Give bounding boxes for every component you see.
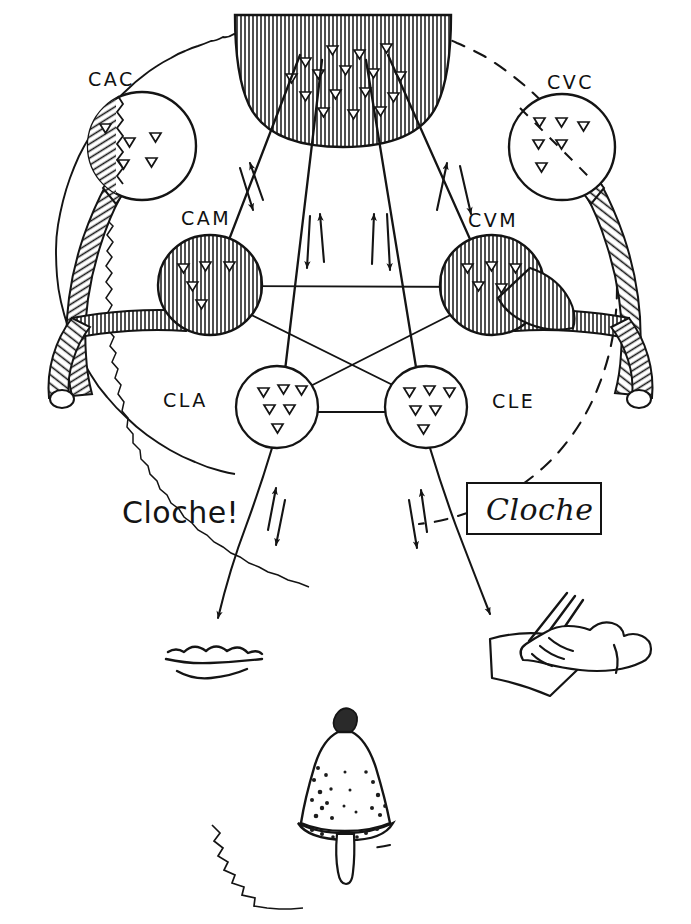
lower-lip <box>177 669 247 678</box>
arrow-down-CLE <box>387 214 390 270</box>
figure-canvas: CAC CVC CAM CVM CLA CLE Cloche! Cloche <box>0 0 691 924</box>
top-region-outline <box>235 15 451 147</box>
arrow-down-CLA <box>307 216 310 268</box>
path-CLA-to-mouth <box>218 448 272 618</box>
centre-label-CLA: CLA <box>163 389 208 411</box>
right-tract-endbulb <box>627 390 651 408</box>
head-outline-bottom-wavy <box>212 825 303 909</box>
centre-CVC[interactable] <box>509 94 615 200</box>
upper-lip <box>168 647 262 655</box>
written-word-label: Cloche <box>486 492 594 527</box>
arrow-up-speech <box>268 488 276 530</box>
arrow-up-writing <box>421 490 427 532</box>
centre-CLA[interactable] <box>236 366 318 448</box>
output-pathways <box>218 448 490 618</box>
pathway-arrows <box>240 163 471 270</box>
centre-CAC[interactable] <box>88 92 196 200</box>
centre-CLE[interactable] <box>385 366 467 448</box>
centre-label-CLE: CLE <box>492 390 535 412</box>
centre-label-CAM: CAM <box>181 207 231 229</box>
arrow-down-CVM <box>460 166 471 214</box>
centre-CLE-circle[interactable] <box>385 366 467 448</box>
hand-drawn-brain-diagram <box>0 0 691 924</box>
bell-handle <box>334 708 358 734</box>
arrow-up-CLA <box>320 214 324 262</box>
arrow-up-CLE <box>372 214 374 264</box>
centre-label-CVC: CVC <box>547 71 594 93</box>
arrow-down-writing <box>409 500 417 548</box>
centre-CVM[interactable] <box>440 235 574 335</box>
arrow-down-speech <box>276 500 285 545</box>
writing-hand-icon <box>490 593 651 696</box>
left-tract-endbulb <box>50 390 74 408</box>
centre-CAM-circle[interactable] <box>158 235 262 335</box>
centre-CLA-circle[interactable] <box>236 366 318 448</box>
mouth-lips-icon <box>166 647 262 679</box>
lip-line <box>166 659 262 663</box>
bell-clapper <box>336 834 354 884</box>
centre-label-CVM: CVM <box>468 209 518 231</box>
head-outline-bottom-dashed <box>371 845 390 848</box>
spoken-word-label: Cloche! <box>122 495 239 530</box>
bell-icon <box>298 708 393 884</box>
hatched-cortical-region <box>235 15 451 147</box>
centre-label-CAC: CAC <box>88 68 135 90</box>
centre-CAM[interactable] <box>158 235 262 335</box>
